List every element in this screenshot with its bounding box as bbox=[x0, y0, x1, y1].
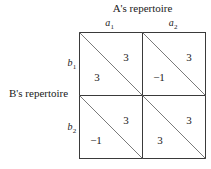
payoff-b1-a1-lower-left: 3 bbox=[85, 72, 109, 83]
diagonal-b2-a2 bbox=[143, 96, 206, 159]
payoff-b1-a2-lower-left: −1 bbox=[147, 72, 171, 83]
diagonal-b2-a1 bbox=[80, 96, 143, 159]
payoff-b1-a1-upper-right: 3 bbox=[114, 52, 138, 63]
payoff-b2-a1-upper-right: 3 bbox=[114, 115, 138, 126]
payoff-b2-a2-lower-left: 3 bbox=[148, 135, 172, 146]
diagonal-b1-a1 bbox=[80, 33, 143, 96]
payoff-matrix-figure: A's repertoire B's repertoire a1 a2 b1 b… bbox=[0, 0, 211, 169]
payoff-b2-a1-lower-left: −1 bbox=[84, 135, 108, 146]
payoff-b1-a2-upper-right: 3 bbox=[177, 52, 201, 63]
payoff-b2-a2-upper-right: 3 bbox=[177, 115, 201, 126]
diagonal-b1-a2 bbox=[143, 33, 206, 96]
